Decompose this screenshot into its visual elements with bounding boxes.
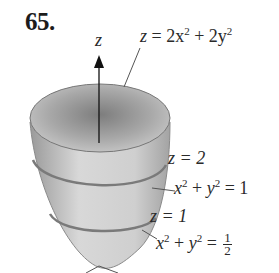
level-z1-label: z = 1 [150, 206, 187, 227]
paraboloid-opening [30, 84, 170, 152]
z-axis-arrow-icon [94, 55, 104, 68]
circle-radius-1-label: x2 + y2 = 1 [174, 178, 248, 199]
fraction-one-half: 12 [223, 232, 232, 257]
leader-surface [124, 48, 140, 87]
z-axis-label: z [95, 30, 102, 51]
level-z2-label: z = 2 [168, 148, 205, 169]
circle-radius-half-label: x2 + y2 = 12 [156, 232, 232, 257]
surface-equation-label: z = 2x2 + 2y2 [140, 26, 232, 47]
